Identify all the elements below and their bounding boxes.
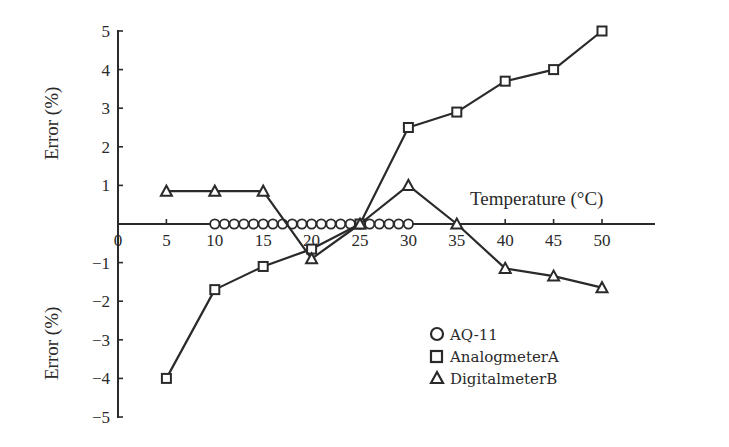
circle-marker <box>384 219 393 228</box>
legend-label: AnalogmeterA <box>449 348 559 366</box>
y-tick-label: −2 <box>92 292 110 311</box>
x-tick-label: 5 <box>162 231 171 250</box>
circle-marker <box>326 219 335 228</box>
y-tick-label: −3 <box>92 331 110 350</box>
triangle-marker <box>548 271 559 281</box>
square-marker <box>404 123 413 132</box>
circle-marker <box>394 219 403 228</box>
circle-marker <box>297 219 306 228</box>
y-tick-label: −1 <box>92 254 110 273</box>
x-axis-label: Temperature (°C) <box>470 188 603 210</box>
circle-marker <box>268 219 277 228</box>
circle-marker <box>336 219 345 228</box>
square-marker <box>501 77 510 86</box>
triangle-marker <box>161 186 172 196</box>
circle-marker <box>230 219 239 228</box>
y-tick-label: 5 <box>102 22 111 41</box>
series-aq-11 <box>210 219 413 228</box>
circle-marker <box>404 219 413 228</box>
square-marker <box>210 285 219 294</box>
x-tick-label: 15 <box>255 231 272 250</box>
legend-item-aq11: AQ-11 <box>431 326 498 344</box>
y-tick-label: 2 <box>102 138 111 157</box>
circle-marker <box>210 219 219 228</box>
y-tick-label: −4 <box>92 369 111 388</box>
circle-marker <box>307 219 316 228</box>
y-tick-label: 3 <box>102 99 111 118</box>
square-marker <box>452 108 461 117</box>
square-marker <box>598 27 607 36</box>
x-tick-label: 30 <box>400 231 417 250</box>
x-tick-label: 0 <box>114 231 123 250</box>
square-icon <box>431 351 442 362</box>
y-tick-label: 1 <box>102 176 111 195</box>
triangle-marker <box>209 186 220 196</box>
triangle-marker <box>597 282 608 292</box>
circle-marker <box>239 219 248 228</box>
circle-icon <box>431 328 443 340</box>
circle-marker <box>317 219 326 228</box>
legend-item-analogmeter: AnalogmeterA <box>431 348 559 366</box>
square-marker <box>549 65 558 74</box>
square-marker <box>162 374 171 383</box>
triangle-marker <box>258 186 269 196</box>
y-tick-label: 4 <box>102 61 111 80</box>
error-vs-temperature-chart: 54321−1−2−3−4−505101520253035404550 Temp… <box>0 0 729 447</box>
y-tick-label: −5 <box>92 408 110 427</box>
x-tick-label: 10 <box>206 231 223 250</box>
circle-marker <box>259 219 268 228</box>
y-axis-label-bottom: Error (%) <box>41 307 63 380</box>
x-tick-label: 40 <box>497 231 514 250</box>
triangle-icon <box>431 372 443 383</box>
legend: AQ-11 AnalogmeterA DigitalmeterB <box>431 326 559 388</box>
x-tick-label: 25 <box>352 231 369 250</box>
circle-marker <box>375 219 384 228</box>
legend-item-digitalmeter: DigitalmeterB <box>431 370 557 388</box>
circle-marker <box>365 219 374 228</box>
triangle-marker <box>403 180 414 190</box>
x-tick-label: 35 <box>448 231 465 250</box>
x-tick-label: 50 <box>594 231 611 250</box>
legend-label: AQ-11 <box>449 326 498 344</box>
y-axis-label-top: Error (%) <box>41 87 63 160</box>
circle-marker <box>220 219 229 228</box>
x-tick-label: 45 <box>545 231 562 250</box>
square-marker <box>259 262 268 271</box>
legend-label: DigitalmeterB <box>450 370 557 388</box>
circle-marker <box>249 219 258 228</box>
